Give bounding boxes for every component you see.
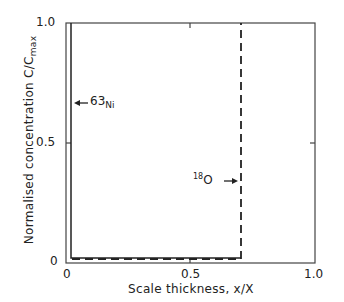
y-tick-label-0: 0: [50, 254, 58, 268]
ni-annotation: 63Ni: [90, 94, 115, 110]
x-axis-title: Scale thickness, x/X: [66, 282, 316, 296]
o-annotation: 18O: [193, 172, 213, 187]
x-tick-label-05: 0.5: [181, 267, 200, 281]
x-tick-label-1: 1.0: [304, 267, 323, 281]
ni-symbol: Ni: [105, 100, 114, 110]
y-axis-title-main: Normalised concentration C/C: [22, 56, 36, 244]
y-tick-label-1: 1.0: [36, 15, 55, 29]
plot-frame: [66, 23, 315, 263]
y-axis-title: Normalised concentration C/Cmax: [22, 44, 38, 244]
y-tick-label-05: 0.5: [36, 135, 55, 149]
o-arrowhead: [232, 178, 238, 184]
o-mass: 18: [193, 172, 203, 181]
y-axis-title-sub: max: [28, 36, 38, 57]
series-18o-line: [72, 23, 241, 259]
ni-mass: 63: [90, 94, 105, 108]
o-symbol: O: [203, 173, 212, 187]
series-63ni-line: [71, 23, 241, 258]
x-tick-label-0: 0: [63, 267, 71, 281]
ni-arrowhead: [74, 100, 80, 106]
